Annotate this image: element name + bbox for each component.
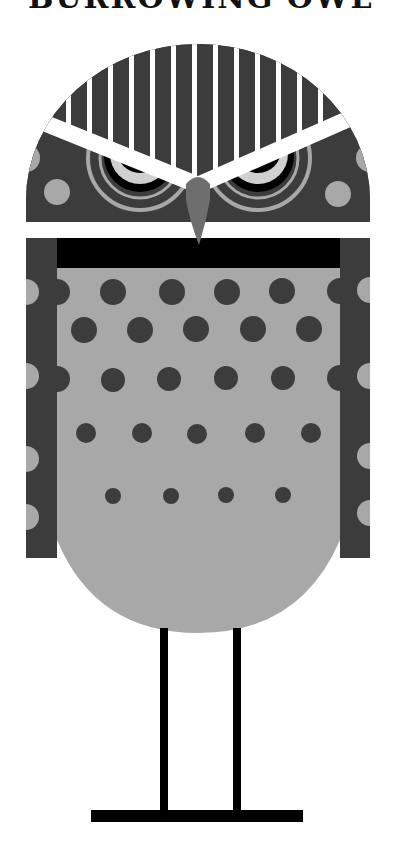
right-wing <box>340 238 383 558</box>
cheek-dot <box>325 181 351 207</box>
owl-belly <box>44 268 353 638</box>
left-wing <box>13 238 57 558</box>
cheek-dot <box>12 144 40 172</box>
cheek-dot <box>44 179 70 205</box>
owl-illustration <box>0 0 399 868</box>
left-leg <box>160 628 168 816</box>
perch-bar <box>91 810 303 822</box>
right-leg <box>233 628 241 816</box>
cheek-dot <box>356 144 384 172</box>
